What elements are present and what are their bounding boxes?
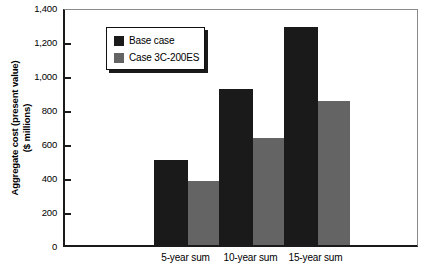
bar-base-case bbox=[219, 89, 253, 245]
x-axis-tick-label: 5-year sum bbox=[161, 252, 210, 264]
legend-item-label: Case 3C-200ES bbox=[129, 52, 199, 63]
x-axis-tick-labels: 5-year sum10-year sum15-year sum bbox=[63, 252, 418, 272]
legend-swatch-icon bbox=[114, 53, 124, 63]
y-axis-tick-label: 400 bbox=[23, 174, 57, 184]
chart-legend: Base case Case 3C-200ES bbox=[106, 27, 205, 70]
bar-case-3c-200es bbox=[253, 138, 285, 245]
y-axis-tick-labels: 02004006008001,0001,2001,400 bbox=[23, 0, 57, 274]
y-axis-tick-label: 1,200 bbox=[23, 38, 57, 48]
bar-base-case bbox=[284, 27, 318, 245]
y-axis-tick-label: 600 bbox=[23, 140, 57, 150]
legend-item-base-case: Base case bbox=[114, 33, 204, 48]
legend-item-case-3c-200es: Case 3C-200ES bbox=[114, 50, 204, 65]
bar-case-3c-200es bbox=[188, 181, 220, 245]
y-axis-tick-label: 1,400 bbox=[23, 4, 57, 14]
y-axis-tick-label: 0 bbox=[23, 242, 57, 252]
legend-swatch-icon bbox=[114, 36, 124, 46]
y-axis-tick-label: 200 bbox=[23, 208, 57, 218]
bar-chart: Aggregate cost (present value) ($ millio… bbox=[0, 0, 431, 274]
bar-case-3c-200es bbox=[318, 101, 350, 246]
bar-base-case bbox=[154, 160, 188, 245]
x-axis-tick-label: 10-year sum bbox=[224, 252, 278, 264]
y-axis-tick-label: 1,000 bbox=[23, 72, 57, 82]
legend-item-label: Base case bbox=[129, 35, 174, 46]
x-axis-tick-label: 15-year sum bbox=[289, 252, 343, 264]
y-axis-tick-label: 800 bbox=[23, 106, 57, 116]
